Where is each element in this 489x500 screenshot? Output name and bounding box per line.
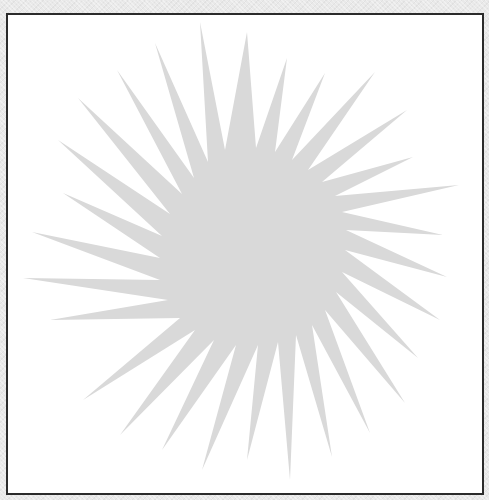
starburst-icon [23,22,459,480]
starburst-canvas [0,0,489,500]
image-frame [6,13,484,495]
